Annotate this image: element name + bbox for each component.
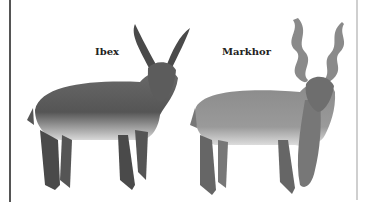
markhor-figure: [190, 18, 344, 195]
animals-drawing: [0, 0, 367, 216]
markhor-label: Markhor: [222, 46, 271, 57]
illustration-frame: Ibex Markhor: [0, 0, 367, 216]
ibex-label: Ibex: [95, 46, 119, 57]
